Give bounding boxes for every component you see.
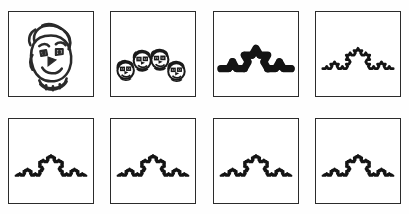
koch-curve-path xyxy=(323,155,393,175)
panel-iteration-4 xyxy=(8,118,94,204)
seed-face-drawing xyxy=(9,12,93,96)
koch-blob-dots xyxy=(218,45,295,72)
iteration-4-drawing xyxy=(9,119,93,203)
mini-face-3 xyxy=(152,49,169,69)
panel-cell-6 xyxy=(205,107,307,214)
iteration-2-drawing xyxy=(214,12,298,96)
panel-cell-1 xyxy=(102,0,204,107)
koch-blob xyxy=(280,65,286,71)
iteration-1-drawing xyxy=(111,12,195,96)
iteration-5-drawing xyxy=(111,119,195,203)
panel-seed-face xyxy=(8,11,94,97)
iteration-7-drawing xyxy=(316,119,400,203)
koch-blob xyxy=(252,45,258,51)
panel-cell-3 xyxy=(307,0,409,107)
koch-blob xyxy=(241,51,248,58)
eyebrow-right xyxy=(56,42,66,45)
koch-blob xyxy=(272,65,278,71)
koch-blob xyxy=(218,65,224,71)
pupil-right xyxy=(58,50,61,53)
mini-face-1 xyxy=(118,60,135,79)
koch-curve-path xyxy=(16,155,86,175)
koch-blob xyxy=(225,65,232,72)
koch-blob xyxy=(256,51,263,58)
panel-cell-4 xyxy=(0,107,102,214)
koch-blob xyxy=(260,58,267,65)
iteration-6-drawing xyxy=(214,119,298,203)
eyebrow-left xyxy=(39,43,49,45)
panel-cell-5 xyxy=(102,107,204,214)
koch-convergence-figure xyxy=(0,0,409,214)
koch-curve-path xyxy=(323,48,393,68)
pupil-left xyxy=(42,51,45,54)
koch-blob xyxy=(248,51,256,59)
panel-iteration-6 xyxy=(213,118,299,204)
koch-blob xyxy=(233,65,239,71)
nose xyxy=(48,56,56,65)
panel-cell-7 xyxy=(307,107,409,214)
mini-face-2 xyxy=(134,50,151,70)
panel-grid xyxy=(0,0,409,214)
koch-blob xyxy=(240,65,247,72)
koch-blob xyxy=(264,52,270,58)
panel-iteration-3 xyxy=(315,11,401,97)
mouth-smile xyxy=(42,67,62,73)
koch-curve-path xyxy=(118,155,188,175)
panel-cell-2 xyxy=(205,0,307,107)
koch-curve-path xyxy=(220,155,290,175)
koch-blob xyxy=(228,58,236,66)
panel-cell-0 xyxy=(0,0,102,107)
koch-blob xyxy=(275,58,282,65)
koch-blob xyxy=(264,64,272,72)
panel-iteration-7 xyxy=(315,118,401,204)
mini-face-4 xyxy=(168,61,185,80)
koch-blob xyxy=(287,65,294,72)
panel-iteration-2 xyxy=(213,11,299,97)
koch-blob xyxy=(245,58,251,64)
panel-iteration-5 xyxy=(110,118,196,204)
iteration-3-drawing xyxy=(316,12,400,96)
panel-iteration-1 xyxy=(110,11,196,97)
